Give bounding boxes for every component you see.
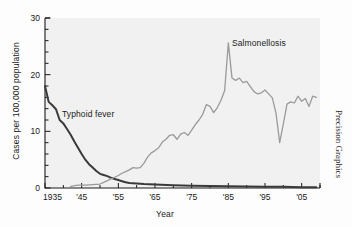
svg-text:1935: 1935 (43, 192, 62, 202)
svg-text:'95: '95 (259, 192, 270, 202)
svg-text:'05: '05 (296, 192, 307, 202)
x-axis-title: Year (135, 209, 195, 219)
svg-text:'45: '45 (76, 192, 87, 202)
series-label-typhoid-fever: Typhoid fever (62, 109, 114, 119)
svg-text:'85: '85 (223, 192, 234, 202)
svg-text:'75: '75 (186, 192, 197, 202)
svg-text:10: 10 (31, 126, 41, 136)
series-label-salmonellosis: Salmonellosis (232, 38, 286, 48)
svg-text:'65: '65 (149, 192, 160, 202)
svg-text:'55: '55 (113, 192, 124, 202)
svg-text:20: 20 (31, 70, 41, 80)
credit-text: Precision Graphics (334, 84, 344, 204)
y-axis-title: Cases per 100,000 population (11, 38, 21, 164)
chart-figure: 01020301935'45'55'65'75'85'95'05 Cases p… (0, 0, 352, 227)
svg-text:30: 30 (31, 13, 41, 23)
svg-text:0: 0 (35, 183, 40, 193)
line-chart-plot: 01020301935'45'55'65'75'85'95'05 (0, 0, 352, 227)
